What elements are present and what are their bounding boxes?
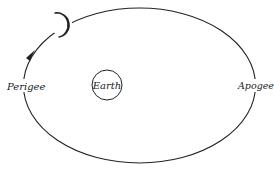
direction-arrow-icon [26,50,35,61]
earth-label: Earth [92,80,122,91]
perigee-label: Perigee [6,81,45,92]
earth-circle: Earth [92,70,122,100]
orbit-diagram: Earth Perigee Apogee [0,0,274,169]
apogee-label: Apogee [237,80,274,91]
